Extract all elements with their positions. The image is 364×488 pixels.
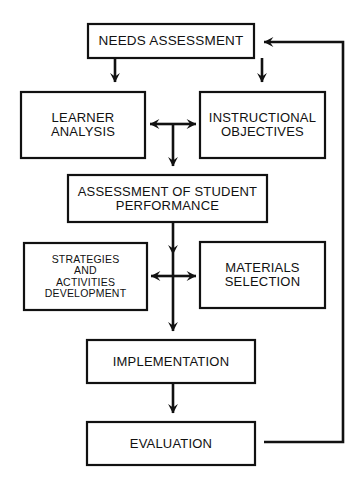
box-instructional-objectives [200,92,325,158]
box-strategies-and-activities-development [24,243,147,310]
box-assessment-of-student-performance [68,175,267,222]
box-implementation [87,340,255,383]
box-needs-assessment [88,24,254,58]
flowchart-canvas [0,0,364,488]
box-materials-selection [200,242,325,308]
flowchart-diagram: NEEDS ASSESSMENT LEARNER ANALYSIS INSTRU… [0,0,364,488]
box-evaluation [87,422,255,465]
box-learner-analysis [21,92,145,158]
